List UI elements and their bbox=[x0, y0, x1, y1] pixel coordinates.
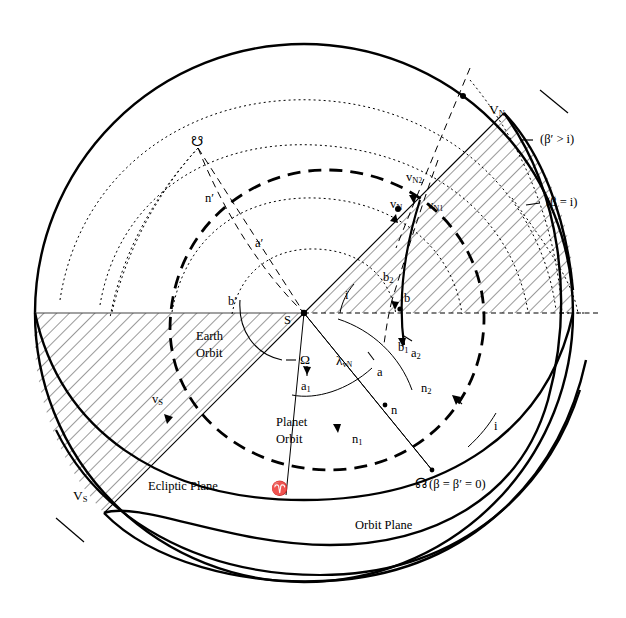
VN-upper-subscript: N bbox=[499, 108, 505, 118]
orbit-plane-label: Orbit Plane bbox=[355, 519, 412, 532]
tick-a bbox=[368, 352, 374, 360]
point-b2: b2 bbox=[383, 271, 394, 285]
diagram-canvas: ☋ n′ a′ b′ S Earth Orbit Planet Orbit Ec… bbox=[0, 0, 626, 618]
dotted-arc-descending-left2 bbox=[112, 148, 198, 312]
point-a1: a1 bbox=[301, 380, 311, 394]
omega-angle-label: Ω bbox=[300, 353, 310, 367]
dot-b bbox=[397, 306, 402, 311]
right-i-angle-arc bbox=[468, 413, 496, 447]
planet-orbit-label-line1: Planet bbox=[276, 416, 307, 429]
meridian-through-descending-node bbox=[198, 148, 304, 313]
point-a-prime: a′ bbox=[255, 237, 263, 250]
VN-upper-base: V bbox=[489, 102, 499, 117]
point-n2: n2 bbox=[421, 382, 432, 396]
planet-orbit-label-line2: Orbit bbox=[276, 433, 302, 446]
point-b-prime: b′ bbox=[228, 295, 237, 308]
condition-beta-prime-gt-i: (β′ > i) bbox=[540, 133, 574, 146]
dot-sun bbox=[301, 310, 307, 316]
point-a2: a2 bbox=[411, 347, 421, 361]
point-n1: n1 bbox=[352, 433, 363, 447]
ascending-node-symbol: ☊ bbox=[415, 476, 427, 491]
b2-subscript: 2 bbox=[389, 275, 393, 285]
point-n-prime: n′ bbox=[205, 192, 214, 205]
velocity-vN1: vN1 bbox=[427, 199, 443, 213]
point-n: n bbox=[391, 404, 397, 417]
a1-subscript: 1 bbox=[307, 384, 311, 394]
b1-subscript: 1 bbox=[404, 345, 408, 355]
velocity-vN: vN bbox=[390, 198, 402, 212]
point-b: b bbox=[404, 292, 410, 305]
celestial-sphere-svg bbox=[0, 0, 626, 618]
arrow-a1 bbox=[303, 366, 311, 375]
tick-marks bbox=[286, 336, 462, 404]
VS-upper-base: V bbox=[73, 488, 83, 503]
leader-VN-outer bbox=[540, 90, 568, 113]
vN-subscript: N bbox=[396, 202, 402, 212]
n1-subscript: 1 bbox=[358, 437, 362, 447]
VS-upper-subscript: S bbox=[83, 494, 88, 504]
vN1-subscript-1: 1 bbox=[439, 204, 443, 213]
dot-ascending-node bbox=[430, 468, 435, 473]
leader-VS-outer bbox=[56, 518, 84, 542]
ecliptic-plane-label: Ecliptic Plane bbox=[148, 480, 218, 493]
inclination-angle-right: i bbox=[494, 420, 497, 433]
point-sun-label: S bbox=[284, 314, 291, 327]
velocity-VN-upper: VN bbox=[489, 103, 505, 118]
vS-subscript: S bbox=[158, 397, 163, 407]
lambda-vn-label: λvN bbox=[336, 354, 352, 369]
radial-to-n bbox=[304, 313, 432, 470]
a2-subscript: 2 bbox=[417, 351, 421, 361]
inclination-angle-wedge: i bbox=[345, 289, 348, 302]
arrow-vN bbox=[390, 214, 398, 223]
lambda-sub-N: N bbox=[347, 360, 352, 369]
velocity-VS-outer: VS bbox=[73, 489, 87, 504]
ascending-node-group: ☊(β = β′ = 0) bbox=[415, 477, 486, 491]
condition-beta-eq-i: (β = i) bbox=[546, 196, 577, 209]
point-a: a bbox=[377, 366, 383, 379]
earth-orbit-label-line1: Earth bbox=[196, 330, 223, 343]
velocity-vS: vS bbox=[152, 393, 163, 407]
dot-n bbox=[383, 403, 388, 408]
point-b1: b1 bbox=[398, 341, 409, 355]
velocity-vN2: vN2 bbox=[406, 171, 422, 185]
dot-VN-upper bbox=[460, 93, 466, 99]
vN2-subscript-2: 2 bbox=[418, 176, 422, 185]
n2-subscript: 2 bbox=[427, 386, 431, 396]
arrow-n1 bbox=[333, 424, 341, 433]
descending-node-symbol: ☋ bbox=[191, 135, 203, 149]
earth-orbit-label-line2: Orbit bbox=[196, 347, 222, 360]
dotted-arc-descending-left bbox=[110, 148, 198, 318]
ascending-node-annotation: (β = β′ = 0) bbox=[429, 477, 486, 491]
aries-symbol: ♈ bbox=[271, 482, 288, 496]
